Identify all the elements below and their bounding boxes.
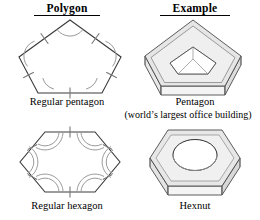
pentagon-angle-arcs [24, 29, 116, 89]
caption-hexnut: Hexnut [136, 200, 254, 212]
caption-regular-pentagon: Regular pentagon [8, 96, 126, 108]
caption-pentagon-building-subtitle: (world’s largest office building) [116, 109, 260, 121]
hexnut-illustration [138, 122, 254, 200]
pentagon-outline [19, 20, 121, 93]
column-header-example: Example [136, 2, 254, 16]
regular-hexagon-illustration [14, 124, 126, 200]
hexagon-angle-arcs [27, 132, 113, 192]
hexagon-outline [20, 132, 120, 192]
column-header-polygon-label: Polygon [46, 2, 87, 14]
caption-pentagon-building: Pentagon [136, 96, 254, 108]
caption-regular-hexagon: Regular hexagon [8, 200, 126, 212]
polygon-example-figure: Polygon Example [0, 0, 260, 220]
regular-pentagon-illustration [14, 16, 126, 96]
pentagon-building-illustration [138, 16, 254, 96]
pentagon-side-tick-marks [23, 33, 117, 98]
column-header-polygon: Polygon [8, 2, 126, 16]
column-header-example-label: Example [173, 2, 218, 14]
